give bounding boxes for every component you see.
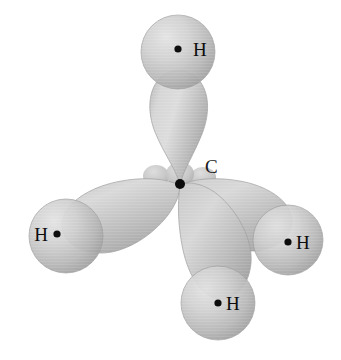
- hydrogen-label-left: H: [34, 224, 48, 245]
- methane-orbital-figure: H H H H C: [0, 0, 341, 360]
- carbon-label: C: [205, 156, 218, 177]
- hydrogen-nucleus-bottom: [214, 299, 221, 306]
- hydrogen-nucleus-top: [174, 45, 181, 52]
- molecule-diagram: H H H H C: [0, 0, 341, 360]
- hydrogen-nucleus-left: [53, 230, 60, 237]
- hydrogen-label-bottom: H: [226, 293, 240, 314]
- hydrogen-label-top: H: [193, 39, 207, 60]
- carbon-nucleus: [175, 179, 185, 189]
- hydrogen-label-right: H: [296, 232, 310, 253]
- hydrogen-nucleus-right: [284, 238, 291, 245]
